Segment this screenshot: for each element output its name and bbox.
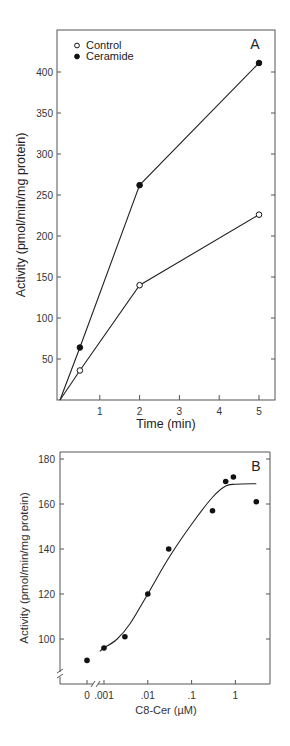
y-tick-label: 160 <box>38 499 55 510</box>
y-tick-label: 180 <box>38 454 55 465</box>
legend-label-ceramide: Ceramide <box>86 50 134 62</box>
x-tick-label: 4 <box>216 406 222 417</box>
legend-marker-control <box>75 43 80 48</box>
data-point <box>223 479 229 485</box>
y-tick-label: 200 <box>36 231 53 242</box>
y-tick-label: 150 <box>36 272 53 283</box>
data-point-control <box>137 282 143 288</box>
x-axis-label: C8-Cer (µM) <box>135 704 196 716</box>
y-tick-label: 100 <box>36 313 53 324</box>
x-tick-label: .001 <box>94 690 114 701</box>
y-tick-label: 400 <box>36 67 53 78</box>
x-tick-label: 1 <box>97 406 103 417</box>
data-point <box>122 634 128 640</box>
data-point <box>166 546 172 552</box>
data-point <box>231 474 237 480</box>
data-point-ceramide <box>137 182 143 188</box>
x-tick-label: .1 <box>187 690 196 701</box>
x-tick-label: 1 <box>233 690 239 701</box>
series-line-ceramide <box>60 63 259 400</box>
fit-curve <box>100 484 257 652</box>
data-point-ceramide <box>77 345 83 351</box>
data-point <box>253 499 259 505</box>
x-axis-label: Time (min) <box>136 417 195 431</box>
y-tick-label: 350 <box>36 108 53 119</box>
panel-label-a: A <box>250 36 260 52</box>
x-tick-label: 0 <box>84 690 90 701</box>
data-point-control <box>77 368 83 374</box>
data-point <box>145 591 151 597</box>
data-point <box>84 658 90 664</box>
data-point-control <box>256 212 262 218</box>
chart-b: 0.001.01.11100120140160180C8-Cer (µM)Act… <box>18 452 270 716</box>
y-tick-label: 50 <box>42 354 54 365</box>
data-point <box>210 508 216 514</box>
y-tick-label: 300 <box>36 149 53 160</box>
series-line-control <box>60 215 259 400</box>
x-tick-label: 5 <box>256 406 262 417</box>
data-point-ceramide <box>256 60 262 66</box>
y-tick-label: 250 <box>36 190 53 201</box>
x-tick-label: 3 <box>177 406 183 417</box>
panel-label-b: B <box>251 458 260 474</box>
plot-frame <box>57 30 275 400</box>
x-tick-label: 2 <box>137 406 143 417</box>
y-tick-label: 100 <box>38 634 55 645</box>
y-tick-label: 140 <box>38 544 55 555</box>
chart-a: 1234550100150200250300350400Time (min)Ac… <box>14 30 275 431</box>
figure: 1234550100150200250300350400Time (min)Ac… <box>0 0 290 746</box>
y-axis-label: Activity (pmol/min/mg protein) <box>14 133 28 298</box>
legend-marker-ceramide <box>75 54 80 59</box>
data-point <box>101 645 107 651</box>
y-tick-label: 120 <box>38 589 55 600</box>
x-tick-label: .01 <box>141 690 155 701</box>
y-axis-label: Activity (pmol/min/mg protein) <box>18 492 30 644</box>
